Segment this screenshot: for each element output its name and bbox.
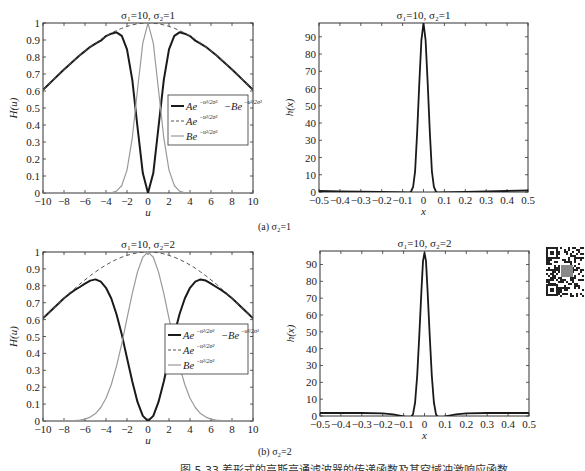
x-tick-label: −8 xyxy=(58,195,70,207)
x-tick-label: −0.1 xyxy=(394,418,414,430)
x-tick-label: −0.2 xyxy=(373,418,393,430)
svg-text:−u²/2σ²: −u²/2σ² xyxy=(199,99,217,105)
y-tick-label: 30 xyxy=(305,134,317,146)
x-axis-label: x xyxy=(421,429,427,441)
y-tick-label: 10 xyxy=(306,393,318,405)
y-tick-label: 0.3 xyxy=(26,364,40,376)
svg-text:Ae: Ae xyxy=(182,330,194,341)
y-tick-label: 60 xyxy=(305,83,317,95)
x-tick-label: 0.4 xyxy=(501,418,515,430)
x-tick-label: −0.4 xyxy=(331,418,351,430)
x-tick-label: −0.3 xyxy=(352,418,372,430)
svg-text:Ae: Ae xyxy=(185,101,197,112)
x-tick-label: −2 xyxy=(121,195,133,207)
y-tick-label: 50 xyxy=(305,100,317,112)
x-tick-label: 10 xyxy=(248,423,260,435)
x-tick-label: −6 xyxy=(79,423,91,435)
x-tick-label: −0.1 xyxy=(393,194,413,206)
x-tick-label: 0.4 xyxy=(500,194,514,206)
y-tick-label: 0.4 xyxy=(26,347,40,359)
x-tick-label: 10 xyxy=(248,195,260,207)
x-tick-label: −0.2 xyxy=(372,194,392,206)
y-tick-label: 50 xyxy=(306,326,318,338)
y-tick-label: 60 xyxy=(306,309,318,321)
svg-text:−Be: −Be xyxy=(224,101,242,112)
svg-text:−u²/2σ²: −u²/2σ² xyxy=(244,99,262,105)
x-tick-label: 6 xyxy=(208,423,214,435)
sub-caption-b: (b) σ₂=2 xyxy=(258,446,292,457)
y-tick-label: 0.5 xyxy=(26,331,40,343)
y-tick-label: 0.8 xyxy=(26,51,40,63)
x-tick-label: 0.3 xyxy=(479,194,493,206)
x-tick-label: 2 xyxy=(166,195,172,207)
y-tick-label: 70 xyxy=(306,292,318,304)
y-tick-label: 20 xyxy=(306,376,318,388)
y-tick-label: 0.1 xyxy=(26,398,40,410)
x-tick-label: 4 xyxy=(187,195,193,207)
y-axis-label: h(x) xyxy=(284,324,297,342)
svg-text:Be: Be xyxy=(186,131,197,142)
chart-spatial-sigma2-1: −0.5−0.4−0.3−0.2−0.100.10.20.30.40.50102… xyxy=(283,9,535,217)
svg-text:Ae: Ae xyxy=(182,345,194,356)
x-axis-label: x xyxy=(420,205,426,217)
x-tick-label: −6 xyxy=(79,195,91,207)
qr-code-icon xyxy=(546,247,585,297)
y-tick-label: 0.9 xyxy=(26,263,40,275)
svg-text:−u²/2σ²: −u²/2σ² xyxy=(241,328,259,334)
y-tick-label: 40 xyxy=(306,343,318,355)
x-tick-label: 2 xyxy=(166,423,172,435)
y-tick-label: 30 xyxy=(306,359,318,371)
x-axis-label: u xyxy=(145,206,151,218)
x-tick-label: 4 xyxy=(187,423,193,435)
axes-frame xyxy=(319,23,528,192)
chart-title: σ₁=10, σ₂=2 xyxy=(398,237,452,249)
chart-legend: Ae−u²/2σ²−Be−u²/2σ²Ae−u²/2σ²Be−u²/2σ² xyxy=(165,324,259,374)
chart-title: σ₁=10, σ₂=1 xyxy=(397,9,451,21)
y-tick-label: 90 xyxy=(306,258,318,270)
x-tick-label: 0.3 xyxy=(480,418,494,430)
chart-legend: Ae−u²/2σ²−Be−u²/2σ²Ae−u²/2σ²Be−u²/2σ² xyxy=(168,95,262,145)
y-axis-label: h(x) xyxy=(283,98,296,116)
sub-caption-a: (a) σ₂=1 xyxy=(258,221,291,232)
figure-canvas: −10−8−6−4−2024681000.10.20.30.40.50.60.7… xyxy=(0,0,585,471)
x-tick-label: 0.5 xyxy=(521,194,535,206)
y-tick-label: 0.8 xyxy=(26,280,40,292)
y-tick-label: 0.7 xyxy=(26,297,40,309)
chart-frequency-sigma2-2: −10−8−6−4−2024681000.10.20.30.40.50.60.7… xyxy=(7,238,259,446)
chart-spatial-sigma2-2: −0.5−0.4−0.3−0.2−0.100.10.20.30.40.50102… xyxy=(284,237,536,441)
y-axis-label: H(u) xyxy=(7,326,20,348)
svg-text:Be: Be xyxy=(183,360,194,371)
x-tick-label: −4 xyxy=(100,195,112,207)
axes-frame xyxy=(320,251,529,416)
y-axis-label: H(u) xyxy=(7,97,20,119)
svg-text:−u²/2σ²: −u²/2σ² xyxy=(199,114,217,120)
x-tick-label: 0.1 xyxy=(438,194,452,206)
y-tick-label: 90 xyxy=(305,31,317,43)
y-tick-label: 0.9 xyxy=(26,34,40,46)
x-axis-label: u xyxy=(145,434,151,446)
y-tick-label: 0.2 xyxy=(26,153,40,165)
y-tick-label: 0 xyxy=(311,186,317,198)
figure-caption: 图 5.33 差形式的高斯高通滤波器的传递函数及其空域冲激响应函数 xyxy=(180,463,509,471)
y-tick-label: 0.3 xyxy=(26,136,40,148)
y-tick-label: 10 xyxy=(305,169,317,181)
y-tick-label: 80 xyxy=(305,48,317,60)
svg-text:Ae: Ae xyxy=(185,116,197,127)
svg-text:−Be: −Be xyxy=(221,330,239,341)
series-line xyxy=(319,23,528,193)
y-tick-label: 1 xyxy=(35,17,41,29)
x-tick-label: −0.3 xyxy=(351,194,371,206)
x-tick-label: 0.2 xyxy=(458,194,472,206)
x-tick-label: 0.5 xyxy=(522,418,536,430)
svg-text:−u²/2σ²: −u²/2σ² xyxy=(196,328,214,334)
y-tick-label: 0.4 xyxy=(26,119,40,131)
x-tick-label: 0.1 xyxy=(439,418,453,430)
x-tick-label: 8 xyxy=(229,423,235,435)
y-tick-label: 20 xyxy=(305,152,317,164)
svg-text:−u²/2σ²: −u²/2σ² xyxy=(196,343,214,349)
y-tick-label: 1 xyxy=(35,246,41,258)
series-line xyxy=(320,253,529,418)
y-tick-label: 70 xyxy=(305,65,317,77)
y-tick-label: 0.1 xyxy=(26,170,40,182)
y-tick-label: 0.6 xyxy=(26,314,40,326)
